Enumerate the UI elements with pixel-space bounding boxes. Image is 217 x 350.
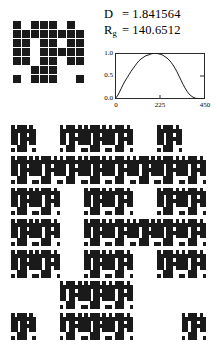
motif-cell [67,48,75,56]
motif-cell [31,66,39,74]
motif-cell [40,21,48,29]
motif-cell [31,75,39,83]
motif-cell [40,75,48,83]
motif-cell [67,21,75,29]
fractal-dimension-symbol: D [104,6,121,22]
motif-cell [76,30,84,38]
motif-cell [13,57,21,65]
motif-cell [22,57,30,65]
motif-cell [13,21,21,29]
density-profile-curve [115,53,205,99]
motif-cell [58,48,66,56]
motif-cell [13,75,21,83]
motif-cell [13,48,21,56]
motif-cell [58,30,66,38]
motif-cell [49,21,57,29]
generator-motif-grid [13,21,85,93]
motif-cell [76,57,84,65]
motif-cell [67,30,75,38]
gyration-radius-line: Rg=140.6512 [104,22,214,39]
motif-cell [49,66,57,74]
motif-cell [76,39,84,47]
motif-cell [49,48,57,56]
motif-cell [22,30,30,38]
motif-cell [67,39,75,47]
motif-cell [40,30,48,38]
x-tick-label-middle: 225 [150,102,170,109]
x-tick-label-left: 0 [106,102,126,109]
motif-cell [67,57,75,65]
motif-cell [13,30,21,38]
motif-cell [40,39,48,47]
x-tick-label-right: 450 [195,102,215,109]
fractal-dimension-line: D=1.841564 [104,6,214,22]
generator-motif-panel [13,21,85,93]
motif-cell [49,75,57,83]
motif-cell [40,48,48,56]
motif-cell [40,57,48,65]
motif-cell [76,75,84,83]
gyration-radius-subscript: g [113,28,117,38]
density-profile-chart: 1.0 0.5 0.0 0 225 450 [96,50,214,112]
fractal-dimension-value: 1.841564 [132,7,180,21]
motif-cell [49,57,57,65]
y-tick-label-middle: 0.5 [96,72,113,79]
motif-cell [76,48,84,56]
fractal-canvas [11,125,206,340]
motif-cell [31,21,39,29]
motif-cell [49,39,57,47]
motif-cell [40,66,48,74]
fractal-dimension-equals: = [121,7,132,21]
fractal-figure-panel [11,125,206,340]
y-tick-label-bottom: 0.0 [96,95,113,102]
motif-cell [22,48,30,56]
statistics-block: D=1.841564 Rg=140.6512 [104,6,214,39]
motif-cell [13,39,21,47]
gyration-radius-symbol: Rg [104,22,121,39]
plot-curve-area [115,53,205,99]
motif-cell [22,39,30,47]
motif-cell [49,30,57,38]
gyration-radius-value: 140.6512 [132,23,180,37]
gyration-radius-equals: = [121,23,132,37]
motif-cell [31,30,39,38]
y-tick-label-top: 1.0 [96,50,113,57]
